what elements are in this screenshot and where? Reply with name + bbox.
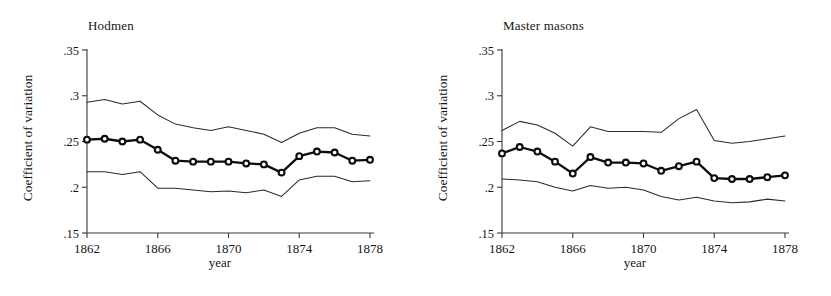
data-point-marker (658, 168, 664, 174)
panel-master-masons: Master masons Coefficient of variation y… (415, 0, 830, 296)
data-point-marker (84, 137, 90, 143)
data-point-marker (605, 160, 611, 166)
data-point-marker (641, 161, 647, 167)
series-line-confidence (502, 109, 785, 146)
data-point-marker (155, 147, 161, 153)
data-point-marker (764, 174, 770, 180)
data-point-marker (279, 170, 285, 176)
data-point-marker (119, 139, 125, 145)
series-line-confidence (87, 172, 370, 197)
x-tick-label: 1866 (560, 241, 587, 256)
plot-area: .15.2.25.3.3518621866187018741878 (0, 0, 415, 296)
data-point-marker (296, 153, 302, 159)
data-point-marker (552, 159, 558, 165)
data-point-marker (588, 154, 594, 160)
panel-hodmen: Hodmen Coefficient of variation year .15… (0, 0, 415, 296)
plot-area: .15.2.25.3.3518621866187018741878 (415, 0, 830, 296)
figure-panels: Hodmen Coefficient of variation year .15… (0, 0, 831, 296)
x-tick-label: 1874 (701, 241, 728, 256)
series-line-confidence (502, 179, 785, 203)
y-tick-label: .25 (63, 135, 79, 149)
data-point-marker (367, 157, 373, 163)
series-line-main (87, 139, 370, 173)
data-point-marker (349, 158, 355, 164)
data-point-marker (243, 161, 249, 167)
y-tick-label: .2 (485, 181, 494, 195)
data-point-marker (332, 150, 338, 156)
data-point-marker (102, 136, 108, 142)
data-point-marker (137, 137, 143, 143)
data-point-marker (517, 144, 523, 150)
data-point-marker (623, 160, 629, 166)
x-tick-label: 1862 (489, 241, 515, 256)
x-tick-label: 1870 (631, 241, 657, 256)
data-point-marker (208, 159, 214, 165)
data-point-marker (534, 149, 540, 155)
y-tick-label: .35 (478, 44, 494, 58)
y-tick-label: .25 (478, 135, 494, 149)
data-point-marker (570, 171, 576, 177)
y-tick-label: .3 (70, 89, 79, 103)
x-tick-label: 1870 (216, 241, 242, 256)
x-tick-label: 1862 (74, 241, 100, 256)
data-point-marker (747, 176, 753, 182)
data-point-marker (729, 176, 735, 182)
x-tick-label: 1878 (357, 241, 383, 256)
y-tick-label: .15 (478, 227, 494, 241)
y-tick-label: .2 (70, 181, 79, 195)
data-point-marker (676, 163, 682, 169)
x-tick-label: 1874 (286, 241, 313, 256)
data-point-marker (499, 150, 505, 156)
y-tick-label: .35 (63, 44, 79, 58)
data-point-marker (173, 158, 179, 164)
data-point-marker (261, 161, 267, 167)
y-tick-label: .3 (485, 89, 494, 103)
data-point-marker (711, 175, 717, 181)
data-point-marker (694, 159, 700, 165)
series-line-confidence (87, 99, 370, 142)
data-point-marker (782, 172, 788, 178)
y-tick-label: .15 (63, 227, 79, 241)
data-point-marker (226, 159, 232, 165)
data-point-marker (314, 149, 320, 155)
data-point-marker (190, 159, 196, 165)
x-tick-label: 1878 (772, 241, 798, 256)
x-tick-label: 1866 (145, 241, 172, 256)
